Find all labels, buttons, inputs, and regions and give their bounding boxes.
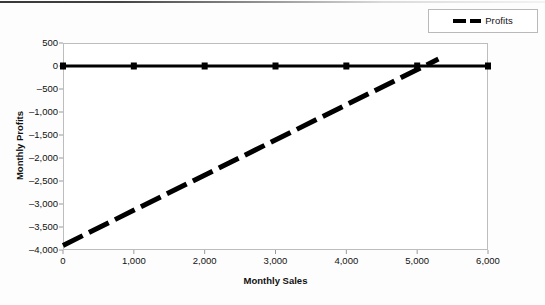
x-tick-label: 2,000 [175, 256, 235, 266]
legend-entry-profits: Profits [453, 16, 513, 26]
y-tick-label: –3,000 [2, 199, 58, 209]
x-tick-label: 6,000 [458, 256, 518, 266]
y-axis-title: Monthly Profits [14, 86, 25, 206]
y-tick-label: –3,500 [2, 222, 58, 232]
x-tick-label: 5,000 [387, 256, 447, 266]
line-chart: 5000–500–1,000–1,500–2,000–2,500–3,000–3… [0, 0, 545, 305]
data-point-marker [60, 63, 66, 70]
y-tick-label: –4,000 [2, 245, 58, 255]
data-series-layer [60, 59, 491, 245]
legend-dash-segment-1 [453, 19, 466, 23]
x-axis-tick-labels: 01,0002,0003,0004,0005,0006,000 [63, 256, 488, 270]
data-point-marker [343, 63, 349, 70]
x-axis-title: Monthly Sales [63, 275, 488, 286]
x-tick-label: 1,000 [104, 256, 164, 266]
y-tick-label: –500 [2, 84, 58, 94]
data-point-marker [202, 63, 208, 70]
y-tick-label: –1,000 [2, 107, 58, 117]
y-tick-label: –1,500 [2, 130, 58, 140]
data-point-marker [485, 63, 491, 70]
y-axis-tick-labels: 5000–500–1,000–1,500–2,000–2,500–3,000–3… [0, 43, 58, 250]
axis-tick-marks [59, 43, 488, 254]
series-line-profits [63, 59, 438, 245]
y-tick-label: –2,000 [2, 153, 58, 163]
x-tick-label: 4,000 [316, 256, 376, 266]
x-tick-label: 0 [33, 256, 93, 266]
x-tick-label: 3,000 [246, 256, 306, 266]
data-point-marker [273, 63, 279, 70]
legend-dash-segment-2 [470, 19, 481, 23]
chart-legend: Profits [428, 9, 538, 33]
y-tick-label: 500 [2, 38, 58, 48]
data-point-marker [131, 63, 137, 70]
y-tick-label: –2,500 [2, 176, 58, 186]
legend-label-profits: Profits [485, 16, 513, 26]
y-tick-label: 0 [2, 61, 58, 71]
